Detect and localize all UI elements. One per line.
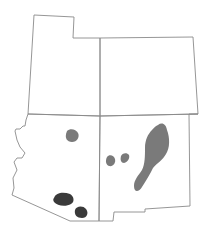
state-colorado [100, 37, 198, 116]
range-patch-west-nm-2 [121, 153, 130, 163]
range-patch-west-nm-1 [106, 155, 115, 166]
state-utah [28, 15, 100, 116]
range-patch-south-arizona-2 [75, 206, 88, 218]
distribution-map [0, 0, 208, 236]
state-arizona [12, 114, 100, 221]
range-patch-north-arizona [66, 129, 79, 142]
range-patch-south-arizona-1 [53, 193, 73, 206]
range-patch-central-nm [134, 124, 169, 191]
